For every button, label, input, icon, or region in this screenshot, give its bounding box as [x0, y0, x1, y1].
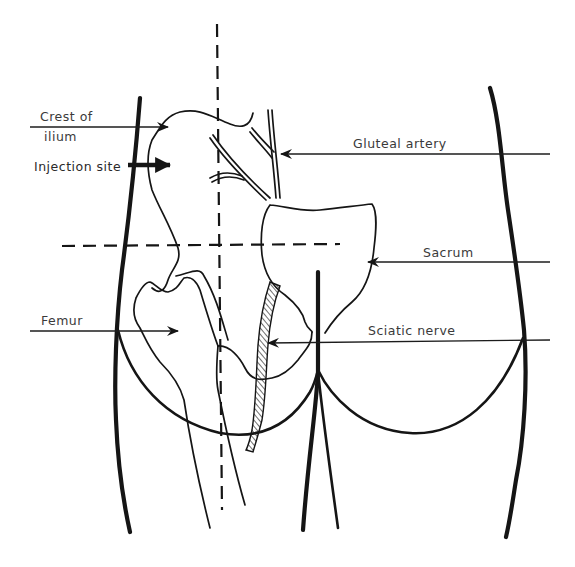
horizontal-dashed-guide — [62, 244, 340, 246]
femur-outline — [134, 278, 218, 529]
label-crest-of-ilium-line2: ilium — [44, 130, 77, 144]
label-crest-of-ilium-line1: Crest of — [40, 110, 93, 124]
anatomy-illustration — [0, 0, 575, 567]
gluteal-injection-diagram: Crest of ilium Injection site Gluteal ar… — [0, 0, 575, 567]
right-buttock-curve — [318, 338, 523, 433]
ilium-outline — [148, 111, 253, 291]
label-femur: Femur — [41, 314, 83, 328]
gluteal-artery-branches — [210, 110, 280, 200]
label-sciatic-nerve: Sciatic nerve — [368, 324, 456, 338]
label-sacrum: Sacrum — [423, 246, 474, 260]
label-gluteal-artery: Gluteal artery — [353, 137, 447, 151]
label-injection-site: Injection site — [34, 160, 121, 174]
right-body-contour — [490, 88, 526, 537]
vertical-dashed-guide — [217, 24, 222, 510]
